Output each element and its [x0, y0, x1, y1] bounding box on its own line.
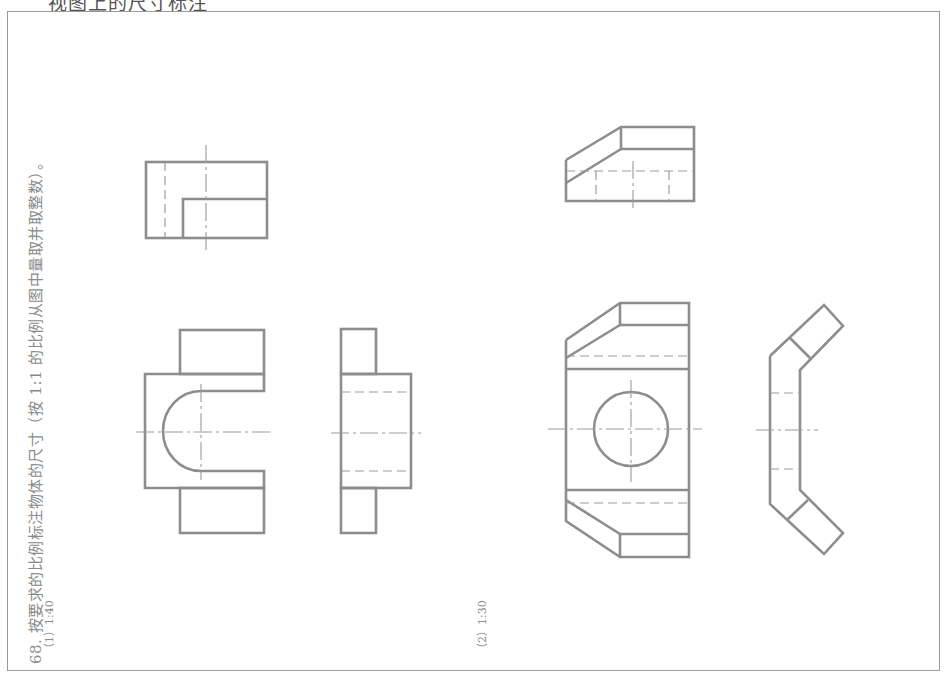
technical-drawing: [0, 0, 944, 675]
problem-2-side-view: [756, 305, 843, 554]
problem-1-top-view: [146, 145, 267, 250]
problem-2-front-view: [548, 303, 702, 557]
problem-1-front-view: [136, 330, 272, 533]
problem-2-top-view: [566, 127, 694, 210]
problem-1-side-view: [331, 329, 421, 533]
